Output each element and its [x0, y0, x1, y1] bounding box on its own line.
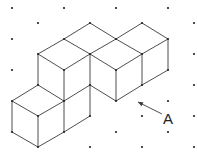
- vertex-dot: [167, 38, 169, 40]
- grid-dot: [141, 115, 143, 117]
- cube-edge: [116, 39, 142, 54]
- cube-edge: [12, 101, 38, 116]
- vertex-dot: [115, 38, 117, 40]
- vertex-dot: [63, 38, 65, 40]
- vertex-dot: [115, 100, 117, 102]
- grid-dot: [115, 131, 117, 133]
- cube-edge: [142, 70, 168, 85]
- grid-dot: [167, 7, 169, 9]
- grid-dot: [193, 115, 195, 117]
- vertex-dot: [37, 115, 39, 117]
- cube-edge: [38, 39, 64, 54]
- vertex-dot: [63, 100, 65, 102]
- vertex-dot: [11, 131, 13, 133]
- vertex-dot: [141, 84, 143, 86]
- cube-edge: [90, 85, 116, 101]
- cube-edge: [142, 39, 168, 54]
- cube-edge: [116, 23, 142, 39]
- cube-edge: [64, 116, 90, 132]
- cube-edge: [90, 39, 116, 54]
- vertex-dot: [115, 69, 117, 71]
- cube-edge: [64, 23, 90, 39]
- cube-edge: [12, 132, 38, 147]
- grid-dot: [11, 69, 13, 71]
- grid-dot: [167, 131, 169, 133]
- vertex-dot: [141, 53, 143, 55]
- vertex-dot: [11, 100, 13, 102]
- grid-dot: [37, 22, 39, 24]
- cube-edge: [38, 85, 64, 101]
- grid-dot: [11, 7, 13, 9]
- cube-vertices: [11, 22, 169, 148]
- grid-dot: [193, 22, 195, 24]
- vertex-dot: [89, 84, 91, 86]
- cube-edge: [90, 54, 116, 70]
- vertex-dot: [141, 22, 143, 24]
- grid-dot: [63, 7, 65, 9]
- arrow-pointer: [138, 102, 162, 114]
- label-a: A: [163, 110, 173, 127]
- grid-dot: [115, 7, 117, 9]
- isometric-cube-diagram: A: [0, 0, 197, 161]
- cube-edge: [116, 54, 142, 70]
- cube-edge: [38, 132, 64, 147]
- grid-dot: [193, 146, 195, 148]
- vertex-dot: [63, 131, 65, 133]
- cube-edge: [64, 54, 90, 70]
- vertex-dot: [37, 84, 39, 86]
- grid-dot: [141, 146, 143, 148]
- cube-edge: [64, 85, 90, 101]
- vertex-dot: [37, 146, 39, 148]
- cube-edge: [38, 54, 64, 70]
- vertex-dot: [89, 115, 91, 117]
- grid-dot: [193, 84, 195, 86]
- grid-dot: [11, 38, 13, 40]
- grid-dot: [167, 100, 169, 102]
- vertex-dot: [63, 69, 65, 71]
- cube-edge: [64, 39, 90, 54]
- vertex-dot: [167, 69, 169, 71]
- grid-dot: [193, 53, 195, 55]
- vertex-dot: [89, 53, 91, 55]
- cube-edge: [12, 85, 38, 101]
- cube-edge: [142, 23, 168, 39]
- grid-dot: [89, 146, 91, 148]
- vertex-dot: [89, 22, 91, 24]
- cube-edge: [90, 23, 116, 39]
- cube-edge: [116, 85, 142, 101]
- vertex-dot: [37, 53, 39, 55]
- cube-edge: [38, 101, 64, 116]
